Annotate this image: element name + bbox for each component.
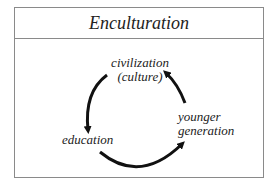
node-education-line1: education bbox=[62, 133, 112, 147]
node-education: education bbox=[62, 133, 112, 147]
node-civilization: civilization (culture) bbox=[110, 56, 170, 84]
arrow-education-to-younger bbox=[100, 144, 182, 167]
node-younger-line1: younger bbox=[178, 110, 230, 124]
cycle-arrows bbox=[0, 0, 277, 189]
node-younger-generation: younger generation bbox=[178, 110, 230, 138]
node-younger-line2: generation bbox=[178, 124, 230, 138]
node-civilization-line1: civilization bbox=[110, 56, 170, 70]
node-civilization-line2: (culture) bbox=[110, 70, 170, 84]
arrow-civilization-to-education bbox=[87, 75, 107, 130]
